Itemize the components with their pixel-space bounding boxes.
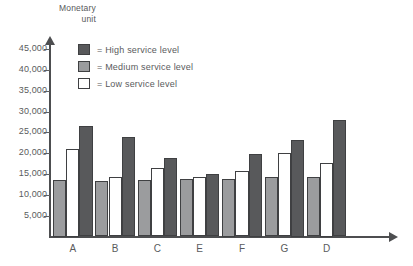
x-axis-category-label: E [178, 243, 222, 254]
x-axis-category-label: B [93, 243, 137, 254]
bar-b-low [109, 177, 122, 237]
x-axis-category-label: A [51, 243, 95, 254]
bar-e-low [193, 177, 206, 236]
plot-area [0, 0, 413, 266]
legend-label-low: = Low service level [97, 79, 177, 89]
bar-g-low [278, 153, 291, 236]
y-axis-tickmark [44, 216, 50, 217]
bar-a-medium [53, 180, 66, 236]
legend-label-medium: = Medium service level [97, 62, 193, 72]
bar-g-medium [265, 177, 278, 236]
legend-item-medium: = Medium service level [78, 58, 193, 75]
bar-chart: Monetary unit 5,00010,00015,00020,00025,… [0, 0, 413, 266]
legend-item-high: = High service level [78, 41, 193, 58]
chart-legend: = High service level = Medium service le… [78, 41, 193, 92]
legend-swatch-high-icon [78, 44, 90, 55]
bar-b-high [122, 137, 135, 236]
bar-d-low [320, 163, 333, 237]
legend-label-high: = High service level [97, 45, 179, 55]
legend-item-low: = Low service level [78, 75, 193, 92]
y-axis-tickmark [44, 49, 50, 50]
bar-g-high [291, 140, 304, 236]
bar-c-low [151, 168, 164, 236]
bar-e-medium [180, 179, 193, 236]
y-axis-tickmark [44, 174, 50, 175]
bar-a-low [66, 149, 79, 237]
bar-f-medium [222, 179, 235, 237]
y-axis-tickmark [44, 91, 50, 92]
bar-e-high [206, 174, 219, 237]
bar-f-high [249, 154, 262, 237]
bar-a-high [79, 126, 92, 236]
y-axis-tickmark [44, 70, 50, 71]
bar-d-medium [307, 177, 320, 237]
y-axis-tickmark [44, 132, 50, 133]
x-axis-category-label: C [135, 243, 179, 254]
y-axis-tickmark [44, 195, 50, 196]
bar-c-high [164, 158, 177, 236]
y-axis-tickmark [44, 112, 50, 113]
bar-c-medium [138, 180, 151, 237]
legend-swatch-medium-icon [78, 61, 90, 72]
x-axis-category-label: F [220, 243, 264, 254]
bar-f-low [235, 171, 248, 237]
x-axis-category-label: G [262, 243, 306, 254]
legend-swatch-low-icon [78, 78, 90, 89]
bar-b-medium [95, 181, 108, 237]
y-axis-tickmark [44, 153, 50, 154]
x-axis-category-label: D [305, 243, 349, 254]
bar-d-high [333, 120, 346, 237]
